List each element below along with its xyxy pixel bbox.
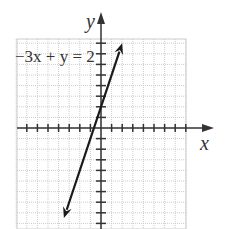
equation-label: −3x + y = 2 [15, 47, 95, 66]
x-axis-label: x [199, 132, 209, 154]
graph: y x −3x + y = 2 [0, 0, 226, 229]
y-axis-arrow-icon [97, 12, 105, 24]
axes [17, 12, 214, 229]
axis-ticks [27, 43, 186, 223]
y-axis-label: y [84, 10, 95, 33]
x-axis-arrow-icon [202, 124, 214, 132]
